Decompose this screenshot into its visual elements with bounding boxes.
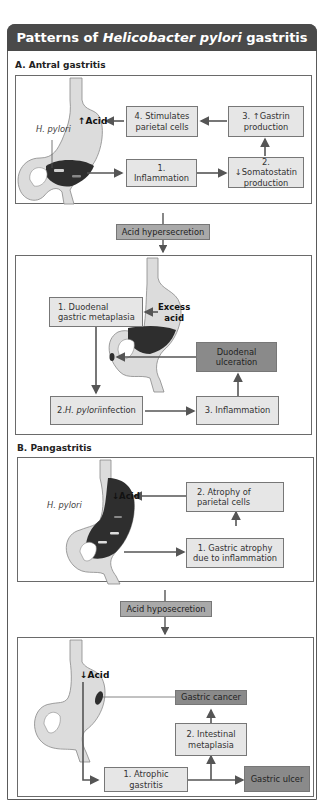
- hpylori-label-b: H. pylori: [47, 500, 82, 510]
- box-gastric-cancer: Gastric cancer: [175, 690, 247, 705]
- box-hpylori-infection: 2. H. pylori infection: [50, 396, 143, 425]
- acid-decrease-label-b2: ↓Acid: [80, 670, 109, 680]
- stomach-cancer-icon: [35, 640, 105, 762]
- box-gastric-ulcer: Gastric ulcer: [244, 766, 310, 792]
- box-parietal-atrophy: 2. Atrophy of parietal cells: [186, 482, 284, 512]
- box-intestinal-metaplasia: 2. Intestinal metaplasia: [175, 723, 247, 756]
- excess-acid-label: Excessacid: [158, 302, 190, 323]
- box-inflammation-a2: 3. Inflammation: [196, 396, 279, 425]
- box-atrophic-gastritis: 1. Atrophic gastritis: [104, 767, 188, 792]
- box-gastrin-production: 3. ↑Gastrin production: [228, 106, 304, 137]
- hpylori-label-a: H. pylori: [36, 124, 71, 134]
- box-acid-hypersecretion: Acid hypersecretion: [116, 224, 210, 240]
- box-duodenal-metaplasia: 1. Duodenal gastric metaplasia: [49, 297, 143, 327]
- stomach-antral-icon: [18, 78, 102, 204]
- acid-decrease-label-b: ↓Acid: [112, 491, 140, 501]
- box-duodenal-ulceration: Duodenal ulceration: [196, 342, 277, 372]
- box-inflammation-a: 1. Inflammation: [126, 159, 197, 187]
- box-acid-hyposecretion: Acid hyposecretion: [120, 601, 212, 617]
- box-gastric-atrophy: 1. Gastric atrophy due to inflammation: [186, 538, 284, 568]
- box-stimulates-parietal: 4. Stimulates parietal cells: [126, 106, 198, 137]
- stomach-pangastritis-icon: [66, 460, 134, 584]
- acid-increase-label: ↑Acid: [78, 116, 107, 126]
- box-somatostatin: 2. ↓Somatostatin production: [228, 157, 304, 188]
